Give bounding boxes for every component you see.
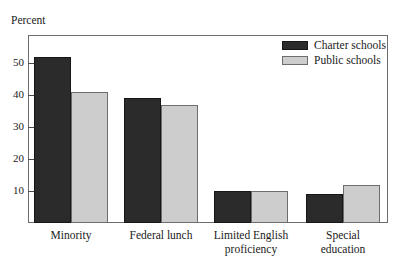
x-axis-category-label: Limited English proficiency xyxy=(206,229,296,256)
bar-public-0[interactable] xyxy=(71,92,108,223)
x-axis-category-label: Federal lunch xyxy=(116,229,206,243)
bar-charter-1[interactable] xyxy=(124,98,161,223)
legend: Charter schools Public schools xyxy=(282,38,386,68)
bar-chart-figure: · · · · · · · · · Percent 5040302010 Min… xyxy=(0,0,403,260)
x-axis-category-label: Minority xyxy=(26,229,116,243)
bar-charter-0[interactable] xyxy=(34,57,71,223)
bar-public-2[interactable] xyxy=(251,191,288,223)
legend-label-charter: Charter schools xyxy=(314,38,386,53)
x-axis-category-label: Special education xyxy=(298,229,388,256)
bar-public-3[interactable] xyxy=(343,185,380,223)
legend-swatch-public-icon xyxy=(282,56,308,65)
legend-swatch-charter-icon xyxy=(282,41,308,50)
bar-charter-3[interactable] xyxy=(306,194,343,223)
legend-label-public: Public schools xyxy=(314,53,381,68)
bar-public-1[interactable] xyxy=(161,105,198,223)
legend-item-public-schools[interactable]: Public schools xyxy=(282,53,386,68)
bar-charter-2[interactable] xyxy=(214,191,251,223)
legend-item-charter-schools[interactable]: Charter schools xyxy=(282,38,386,53)
